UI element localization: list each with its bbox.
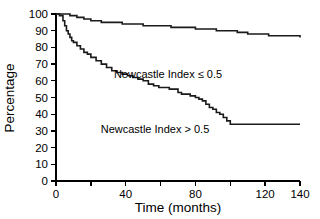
survival-curve-0: [56, 14, 300, 37]
y-axis-title: Percentage: [2, 63, 17, 132]
chart-canvas: 0102030405060708090100 04080120140 Newca…: [0, 0, 320, 219]
y-tick-label: 50: [35, 92, 48, 104]
x-tick-label: 40: [119, 188, 132, 200]
series-label-1: Newcastle Index > 0.5: [101, 123, 210, 135]
x-tick-label: 80: [189, 188, 202, 200]
y-tick-label: 90: [35, 25, 48, 37]
y-tick-label: 70: [35, 58, 48, 70]
y-tick-label: 20: [35, 142, 48, 154]
y-tick-label: 100: [29, 8, 48, 20]
y-tick-label: 40: [35, 108, 48, 120]
x-tick-label: 120: [256, 188, 275, 200]
y-tick-label: 10: [35, 158, 48, 170]
x-axis-tick-labels: 04080120140: [53, 188, 310, 200]
survival-chart-figure: 0102030405060708090100 04080120140 Newca…: [0, 0, 320, 219]
x-axis-title: Time (months): [135, 200, 222, 215]
x-tick-label: 140: [290, 188, 309, 200]
y-tick-label: 60: [35, 75, 48, 87]
y-axis-tick-labels: 0102030405060708090100: [29, 8, 48, 187]
series-label-0: Newcastle Index ≤ 0.5: [114, 68, 222, 80]
y-tick-label: 80: [35, 41, 48, 53]
y-tick-label: 30: [35, 125, 48, 137]
y-tick-label: 0: [42, 175, 48, 187]
x-tick-label: 0: [53, 188, 59, 200]
